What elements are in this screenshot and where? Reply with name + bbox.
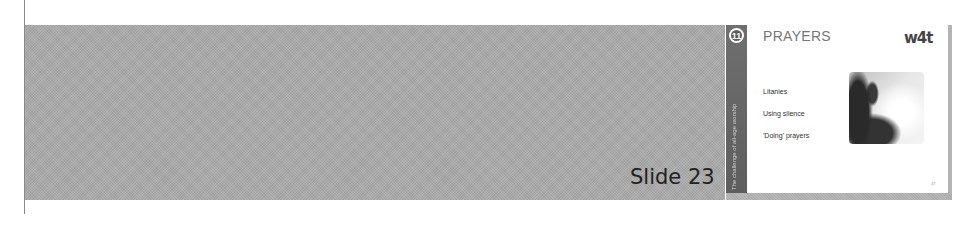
sidebar-vertical-text: The challenge of all-age worship xyxy=(731,50,743,190)
praying-hand-silhouette-icon xyxy=(849,72,924,144)
thumbnail-right-shadow xyxy=(948,25,952,200)
slide-gray-band xyxy=(25,25,725,200)
praying-hand-photo xyxy=(849,72,924,144)
bullet-item: 'Doing' prayers xyxy=(763,131,809,153)
bullet-item: Litanies xyxy=(763,87,809,109)
slide-title: PRAYERS xyxy=(763,28,831,44)
w4t-logo-icon: w4t xyxy=(904,29,932,47)
bullet-list: Litanies Using silence 'Doing' prayers xyxy=(763,87,809,153)
page-number: 47 xyxy=(931,181,935,186)
section-number: 11 xyxy=(732,31,742,41)
thumbnail-bottom-shadow xyxy=(726,193,952,200)
section-number-badge: 11 xyxy=(729,28,744,43)
slide-number-label: Slide 23 xyxy=(630,165,690,189)
bullet-item: Using silence xyxy=(763,109,809,131)
